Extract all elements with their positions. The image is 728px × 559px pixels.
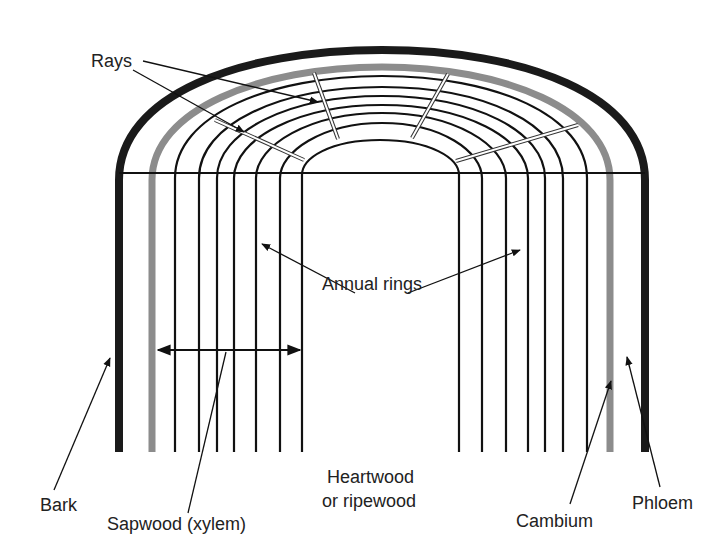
label-phloem: Phloem: [632, 493, 693, 513]
label-sapwood: Sapwood (xylem): [107, 514, 246, 534]
cambium-leader: [570, 381, 611, 504]
annual-rings: [175, 76, 587, 452]
tree-cross-section-diagram: Rays Annual rings Bark Sapwood (xylem) H…: [0, 0, 728, 559]
sapwood-leader: [188, 352, 226, 513]
label-rays: Rays: [91, 51, 132, 71]
label-heartwood-line1: Heartwood: [327, 467, 414, 487]
label-bark: Bark: [40, 495, 78, 515]
label-cambium: Cambium: [516, 511, 593, 531]
bark-leader: [54, 358, 110, 490]
label-annual-rings: Annual rings: [322, 274, 422, 294]
label-heartwood-line2: or ripewood: [322, 491, 416, 511]
